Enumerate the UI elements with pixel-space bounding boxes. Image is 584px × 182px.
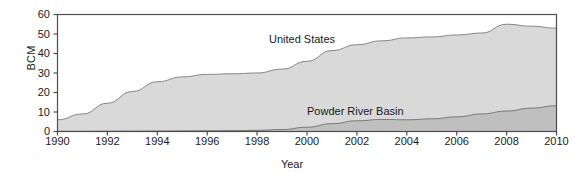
series-label-powder-river-basin: Powder River Basin bbox=[307, 105, 404, 117]
plot-area bbox=[0, 0, 584, 182]
x-axis-title: Year bbox=[0, 158, 584, 170]
series-label-united-states: United States bbox=[269, 33, 335, 45]
area-chart-figure: BCM 0102030405060 1990199219941996199820… bbox=[0, 0, 584, 182]
